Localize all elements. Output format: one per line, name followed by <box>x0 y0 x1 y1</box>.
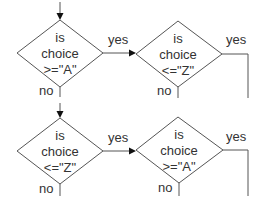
edge-d2-no: no <box>157 83 178 98</box>
edge-d1-no-label: no <box>39 83 53 98</box>
edge-d3-yes: yes <box>103 130 136 155</box>
node-3-line-3: <="Z" <box>44 160 77 175</box>
entry-arrow-2 <box>57 103 64 118</box>
node-4-line-2: choice <box>160 143 198 158</box>
edge-d4-no: no <box>158 180 179 196</box>
node-1-line-1: is <box>55 30 65 45</box>
edge-d1-yes: yes <box>103 32 136 57</box>
edge-d3-yes-label: yes <box>108 130 129 145</box>
node-4-line-3: >="A" <box>162 159 195 174</box>
node-2-line-1: is <box>173 31 183 46</box>
node-4-line-1: is <box>174 127 184 142</box>
edge-d1-no: no <box>39 83 60 98</box>
decision-node-3[interactable]: is choice <="Z" <box>17 118 103 184</box>
edge-d4-yes: yes <box>223 129 248 196</box>
entry-arrow-1 <box>57 2 64 20</box>
arrowhead-icon <box>129 50 136 57</box>
flowchart-canvas: is choice >="A" yes no is choice <="Z" y… <box>0 0 264 205</box>
node-1-line-2: choice <box>41 46 79 61</box>
edge-d4-yes-label: yes <box>226 129 247 144</box>
node-2-line-2: choice <box>159 47 197 62</box>
edge-d2-no-label: no <box>157 83 171 98</box>
node-1-line-3: >="A" <box>43 62 76 77</box>
arrowhead-icon <box>57 111 64 118</box>
node-3-line-1: is <box>55 128 65 143</box>
decision-node-2[interactable]: is choice <="Z" <box>136 21 222 87</box>
edge-d2-yes: yes <box>222 32 248 98</box>
arrowhead-icon <box>57 13 64 20</box>
edge-d3-no-label: no <box>39 181 53 196</box>
edge-d2-yes-label: yes <box>226 32 247 47</box>
decision-node-1[interactable]: is choice >="A" <box>17 20 103 87</box>
decision-node-4[interactable]: is choice >="A" <box>136 117 223 183</box>
edge-d4-no-label: no <box>158 180 172 195</box>
arrowhead-icon <box>129 148 136 155</box>
node-2-line-3: <="Z" <box>162 63 195 78</box>
edge-d3-no: no <box>39 181 60 196</box>
node-3-line-2: choice <box>41 144 79 159</box>
edge-d1-yes-label: yes <box>108 32 129 47</box>
